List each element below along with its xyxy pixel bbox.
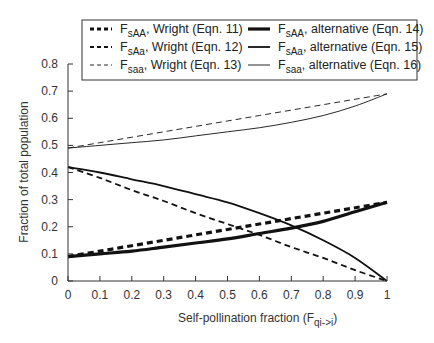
x-axis-title-main: Self-pollination fraction (F xyxy=(178,311,314,325)
x-axis-title-close: ) xyxy=(333,311,337,325)
x-tick-label: 0.2 xyxy=(123,288,140,302)
x-tick-label: 0.7 xyxy=(283,288,300,302)
x-axis-title-sub: qi->i xyxy=(314,317,333,328)
y-tick-label: 0.6 xyxy=(41,111,58,125)
x-tick-label: 0.9 xyxy=(347,288,364,302)
y-axis-title: Fraction of total population xyxy=(17,101,31,242)
series-line-1 xyxy=(68,167,387,281)
y-tick-label: 0.7 xyxy=(41,84,58,98)
y-tick-label: 0.4 xyxy=(41,166,58,180)
x-tick-label: 1 xyxy=(384,288,391,302)
y-tick-label: 0.3 xyxy=(41,193,58,207)
x-tick-label: 0.1 xyxy=(92,288,109,302)
y-tick-label: 0.5 xyxy=(41,138,58,152)
x-tick-label: 0.3 xyxy=(155,288,172,302)
x-tick-label: 0.5 xyxy=(219,288,236,302)
y-tick-label: 0.1 xyxy=(41,247,58,261)
plot-lines xyxy=(68,94,387,281)
axes: 00.10.20.30.40.50.60.70.8 00.10.20.30.40… xyxy=(41,57,390,302)
y-tick-label: 0 xyxy=(51,274,58,288)
x-tick-label: 0.6 xyxy=(251,288,268,302)
x-tick-label: 0 xyxy=(65,288,72,302)
legend: FsAA, Wright (Eqn. 11)FsAa, Wright (Eqn.… xyxy=(82,20,424,80)
x-tick-label: 0.8 xyxy=(315,288,332,302)
x-tick-label: 0.4 xyxy=(187,288,204,302)
series-line-2 xyxy=(68,94,387,148)
y-tick-label: 0.8 xyxy=(41,57,58,71)
x-axis-title: Self-pollination fraction (Fqi->i) xyxy=(178,311,337,328)
x-ticks: 00.10.20.30.40.50.60.70.80.91 xyxy=(65,276,391,302)
y-tick-label: 0.2 xyxy=(41,220,58,234)
chart: 00.10.20.30.40.50.60.70.8 00.10.20.30.40… xyxy=(0,0,434,343)
